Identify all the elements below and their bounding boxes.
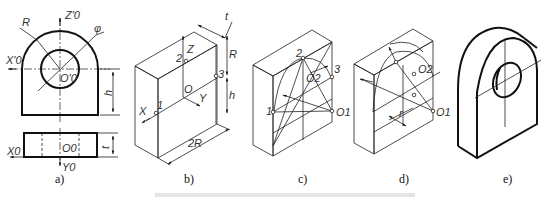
offset-dimension xyxy=(389,116,406,126)
panel-a-orthographic-views: R Z'0 φ X'0 O'0 h X0 O0 Y0 t a) xyxy=(5,9,120,186)
caption-b: b) xyxy=(184,172,194,186)
label-r: R xyxy=(229,48,237,60)
label-y: Y xyxy=(199,92,207,104)
top-view-outline xyxy=(24,133,97,157)
label-o1: O1 xyxy=(436,106,451,118)
box-side-face xyxy=(354,64,374,154)
lower-edge xyxy=(374,98,433,132)
y-axis-arrow xyxy=(183,97,200,106)
front-outline xyxy=(458,38,537,158)
x-axis-arrow xyxy=(142,118,150,123)
line-1-o1 xyxy=(273,111,332,112)
point-1 xyxy=(154,111,158,115)
t-leader xyxy=(225,22,232,38)
caption-e: e) xyxy=(503,172,512,186)
center-o2 xyxy=(412,72,416,76)
label-t: t xyxy=(225,10,229,22)
label-o0-prime: O'0 xyxy=(60,72,78,84)
radius-arrow-top xyxy=(389,47,396,62)
label-o1: O1 xyxy=(336,106,351,118)
label-x0: X0 xyxy=(6,145,21,157)
point-top xyxy=(394,60,398,64)
center-o1 xyxy=(330,109,334,113)
t-dimension xyxy=(198,25,225,38)
label-2r: 2R xyxy=(187,137,202,149)
label-1: 1 xyxy=(266,105,272,117)
label-2: 2 xyxy=(295,47,302,59)
panel-e-finished-isometric: e) xyxy=(458,28,541,186)
label-r: R xyxy=(22,16,30,28)
diag-line-a xyxy=(273,58,303,146)
label-o2: O2 xyxy=(306,72,321,84)
label-3: 3 xyxy=(218,68,225,80)
horizontal-centerline xyxy=(475,60,541,98)
back-outline xyxy=(458,28,524,146)
label-z: Z xyxy=(186,43,195,55)
label-t: t xyxy=(99,145,111,149)
construction-arc xyxy=(274,58,331,111)
panel-d-arc-transfer: O2 O1 r d) xyxy=(354,29,451,186)
lower-edge xyxy=(273,99,332,133)
radius-line-1 xyxy=(361,79,433,111)
figure-caption-cutoff xyxy=(155,193,415,197)
radius-line xyxy=(37,40,60,69)
radius-leader xyxy=(20,28,37,40)
label-o0: O0 xyxy=(62,142,78,154)
label-x0-prime: X'0 xyxy=(5,54,22,66)
label-h: h xyxy=(102,90,114,96)
point-3 xyxy=(330,75,334,79)
label-o: O xyxy=(184,83,193,95)
label-1: 1 xyxy=(157,99,163,111)
label-phi: φ xyxy=(94,22,101,34)
caption-a: a) xyxy=(55,172,64,186)
label-z0-prime: Z'0 xyxy=(64,9,81,21)
label-2: 2 xyxy=(175,52,182,64)
label-3: 3 xyxy=(334,63,341,75)
point-o1-back xyxy=(412,93,416,97)
point-2 xyxy=(184,59,188,63)
label-x: X xyxy=(138,105,147,117)
panel-c-four-center-method: 2 3 O2 1 O1 c) xyxy=(253,30,351,186)
label-h: h xyxy=(229,89,235,101)
label-o2: O2 xyxy=(418,63,433,75)
center-o1 xyxy=(431,109,435,113)
isometric-construction-figure: R Z'0 φ X'0 O'0 h X0 O0 Y0 t a) xyxy=(0,0,543,197)
horizontal-axis-line xyxy=(373,72,440,112)
back-arc xyxy=(390,42,423,52)
caption-c: c) xyxy=(298,172,307,186)
panel-b-bounding-box: t Z 2 3 O Y 1 X R h 2R b) xyxy=(135,10,237,186)
caption-d: d) xyxy=(399,172,409,186)
